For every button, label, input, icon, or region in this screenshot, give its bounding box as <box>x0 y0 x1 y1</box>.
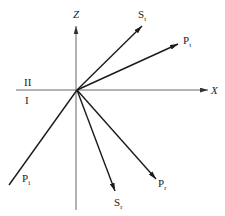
incident-p-ray <box>9 90 77 185</box>
reflected-s-label: Sr <box>114 196 123 211</box>
medium-upper-label: II <box>24 76 32 88</box>
transmitted-p-label: Pt <box>183 34 191 49</box>
reflected-p-label: Pr <box>158 177 167 192</box>
x-axis-label: X <box>210 84 219 96</box>
reflected-s-ray <box>77 90 115 191</box>
incident-p-label: Pi <box>22 172 30 187</box>
transmitted-s-label: St <box>138 8 146 23</box>
wave-diagram: X Z II I Pi St Pt Sr Pr <box>0 0 225 216</box>
transmitted-p-ray <box>77 44 178 90</box>
medium-lower-label: I <box>25 94 29 106</box>
z-axis-label: Z <box>73 8 80 20</box>
reflected-p-ray <box>77 90 156 179</box>
transmitted-s-ray <box>77 26 142 90</box>
